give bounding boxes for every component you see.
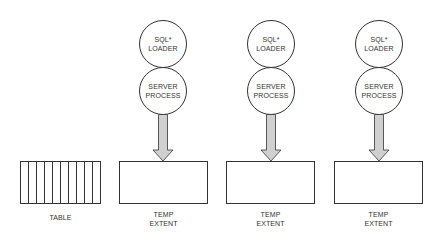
temp-extent-box	[335, 162, 423, 204]
down-arrow-icon	[153, 115, 173, 162]
temp-extent-label: TEMPEXTENT	[226, 210, 315, 228]
temp-extent-label: TEMPEXTENT	[119, 210, 208, 228]
sql-loader-label-line: SQL*	[355, 35, 403, 44]
table-label: TABLE	[20, 213, 101, 222]
sql-loader-label-line: LOADER	[355, 44, 403, 53]
server-process-label-line: SERVER	[139, 82, 187, 91]
server-process-label: SERVERPROCESS	[247, 82, 295, 100]
server-process-label-line: PROCESS	[355, 91, 403, 100]
down-arrow-icon	[261, 115, 281, 162]
sql-loader-label: SQL*LOADER	[355, 35, 403, 53]
temp-extent-label-line: TEMP	[119, 210, 208, 219]
sql-loader-label-line: LOADER	[247, 44, 295, 53]
temp-extent-label: TEMPEXTENT	[334, 210, 423, 228]
server-process-label-line: PROCESS	[247, 91, 295, 100]
temp-extent-label-line: TEMP	[334, 210, 423, 219]
server-process-label: SERVERPROCESS	[355, 82, 403, 100]
table-shape	[21, 162, 101, 204]
temp-extent-label-line: EXTENT	[334, 219, 423, 228]
sql-loader-label: SQL*LOADER	[139, 35, 187, 53]
down-arrow-icon	[369, 115, 389, 162]
sql-loader-label-line: LOADER	[139, 44, 187, 53]
server-process-label: SERVERPROCESS	[139, 82, 187, 100]
server-process-label-line: SERVER	[247, 82, 295, 91]
server-process-label-line: PROCESS	[139, 91, 187, 100]
sql-loader-label-line: SQL*	[139, 35, 187, 44]
temp-extent-label-line: TEMP	[226, 210, 315, 219]
temp-extent-box	[227, 162, 315, 204]
server-process-label-line: SERVER	[355, 82, 403, 91]
temp-extent-box	[120, 162, 208, 204]
sql-loader-label-line: SQL*	[247, 35, 295, 44]
temp-extent-label-line: EXTENT	[119, 219, 208, 228]
temp-extent-label-line: EXTENT	[226, 219, 315, 228]
sql-loader-label: SQL*LOADER	[247, 35, 295, 53]
